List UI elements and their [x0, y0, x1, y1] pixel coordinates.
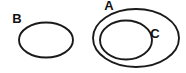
euler-diagram-canvas: B A C — [0, 0, 186, 73]
set-ellipse-c — [100, 21, 152, 60]
set-ellipse-b — [19, 23, 73, 58]
euler-diagram-svg: B A C — [0, 0, 186, 73]
set-label-a: A — [104, 0, 114, 13]
set-label-c: C — [150, 26, 160, 41]
set-label-b: B — [12, 11, 21, 26]
